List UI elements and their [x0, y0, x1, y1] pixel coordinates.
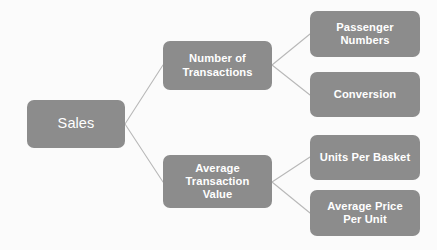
- edge-atv-to-units-per-basket: [272, 157, 310, 182]
- node-passenger-numbers[interactable]: Passenger Numbers: [310, 11, 420, 57]
- node-number-of-transactions[interactable]: Number of Transactions: [163, 41, 272, 90]
- node-sales[interactable]: Sales: [27, 100, 125, 148]
- node-passenger-numbers-label: Passenger Numbers: [310, 21, 420, 47]
- node-average-transaction-value[interactable]: Average Transaction Value: [163, 155, 272, 208]
- node-average-price-per-unit-label: Average Price Per Unit: [310, 200, 420, 226]
- edge-sales-to-average-transaction-value: [125, 124, 163, 182]
- node-sales-label: Sales: [27, 115, 125, 132]
- edge-transactions-to-passenger-numbers: [272, 34, 310, 65]
- node-number-of-transactions-label: Number of Transactions: [163, 52, 272, 78]
- edge-atv-to-average-price-per-unit: [272, 182, 310, 213]
- sales-driver-tree-diagram: Sales Number of Transactions Average Tra…: [0, 0, 437, 250]
- node-conversion[interactable]: Conversion: [310, 72, 420, 117]
- node-units-per-basket-label: Units Per Basket: [310, 151, 420, 164]
- edge-sales-to-number-of-transactions: [125, 65, 163, 124]
- node-average-price-per-unit[interactable]: Average Price Per Unit: [310, 190, 420, 236]
- node-conversion-label: Conversion: [310, 88, 420, 101]
- edge-transactions-to-conversion: [272, 65, 310, 95]
- node-units-per-basket[interactable]: Units Per Basket: [310, 135, 420, 180]
- node-average-transaction-value-label: Average Transaction Value: [163, 162, 272, 202]
